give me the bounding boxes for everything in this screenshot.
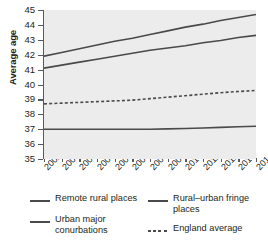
legend-label: Urban major conurbations: [55, 214, 148, 236]
y-tick-label: 43: [11, 35, 35, 45]
x-tick-label: 2014: [254, 151, 268, 172]
line-chart: Average age 3536373839404142434445 20022…: [0, 0, 268, 245]
y-tick: [38, 144, 43, 145]
series-line: [44, 35, 256, 68]
y-tick-label: 35: [11, 154, 35, 164]
legend-column-left: Remote rural places Urban major conurbat…: [30, 193, 148, 244]
series-line: [44, 90, 256, 103]
legend-item: Rural–urban fringe places: [148, 193, 268, 215]
y-tick-label: 42: [11, 50, 35, 60]
chart-legend: Remote rural places Urban major conurbat…: [30, 193, 268, 243]
series-line: [44, 126, 256, 129]
y-tick: [38, 85, 43, 86]
legend-swatch-solid-icon: [30, 196, 50, 206]
series-lines: [44, 10, 256, 159]
legend-label: Rural–urban fringe places: [173, 193, 268, 215]
legend-item: Urban major conurbations: [30, 214, 148, 236]
y-tick-label: 38: [11, 109, 35, 119]
y-tick: [38, 114, 43, 115]
y-tick-label: 45: [11, 5, 35, 15]
y-tick-label: 37: [11, 124, 35, 134]
legend-item: England average: [148, 223, 268, 236]
y-tick: [38, 159, 43, 160]
y-tick: [38, 70, 43, 71]
legend-swatch-dashed-icon: [148, 226, 168, 236]
plot-area: [44, 10, 256, 159]
legend-column-right: Rural–urban fringe places England averag…: [148, 193, 268, 244]
y-tick: [38, 99, 43, 100]
legend-label: Remote rural places: [55, 193, 137, 204]
legend-swatch-solid-icon: [30, 217, 50, 227]
legend-swatch-solid-icon: [148, 196, 168, 206]
y-tick-label: 40: [11, 80, 35, 90]
y-tick-label: 36: [11, 139, 35, 149]
y-tick: [38, 10, 43, 11]
y-tick: [38, 129, 43, 130]
y-tick-label: 41: [11, 65, 35, 75]
y-tick: [38, 25, 43, 26]
y-tick: [38, 40, 43, 41]
legend-item: Remote rural places: [30, 193, 148, 206]
legend-label: England average: [173, 223, 242, 234]
y-tick: [38, 55, 43, 56]
y-tick-label: 39: [11, 94, 35, 104]
y-tick-label: 44: [11, 20, 35, 30]
